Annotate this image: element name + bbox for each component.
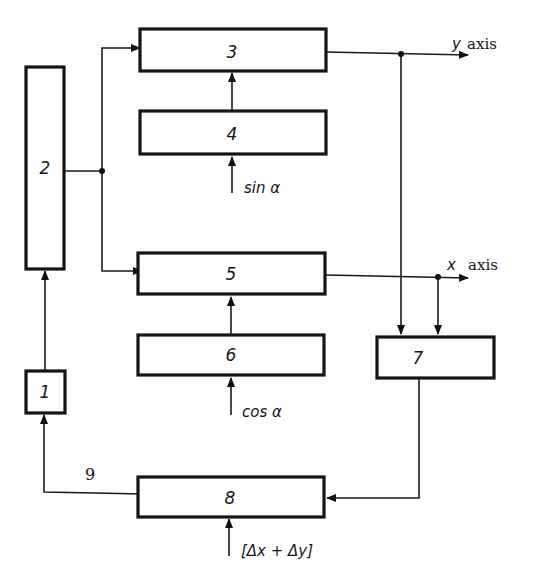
- block-2-label: 2: [40, 158, 51, 178]
- block-1-label: 1: [40, 382, 51, 402]
- feedback-label-9: 9: [85, 465, 95, 484]
- delta-sum-label: [Δx + Δy]: [241, 542, 313, 560]
- block-8-label: 8: [225, 488, 236, 508]
- x-axis-var: x: [446, 256, 456, 274]
- y-axis-var: y: [451, 35, 462, 53]
- block-3: 3: [140, 29, 326, 71]
- wire-x-axis: [326, 275, 468, 278]
- junction-dot: [99, 168, 105, 174]
- cos-alpha-label: cos α: [242, 403, 282, 421]
- block-6: 6: [138, 335, 324, 375]
- block-5-label: 5: [226, 264, 237, 284]
- y-axis-word: axis: [467, 35, 497, 53]
- wire-to-5: [102, 171, 142, 271]
- block-4: 4: [140, 111, 326, 154]
- x-axis-word: axis: [468, 256, 498, 274]
- block-7: 7: [377, 337, 494, 378]
- block-4-label: 4: [227, 124, 238, 144]
- block-3-label: 3: [227, 42, 238, 62]
- sin-alpha-label: sin α: [244, 179, 280, 197]
- block-1: 1: [26, 371, 65, 413]
- wire-7-to-8: [327, 378, 419, 498]
- block-diagram: 2 3 4 5 6 7 1 8 sin α cos α [Δx + Δy] y …: [0, 0, 545, 583]
- block-2: 2: [26, 67, 64, 269]
- block-7-label: 7: [413, 348, 424, 368]
- block-6-label: 6: [226, 345, 237, 365]
- block-8: 8: [138, 477, 324, 517]
- block-5: 5: [138, 253, 325, 294]
- wire-to-3: [102, 48, 140, 171]
- wire-y-axis: [326, 52, 468, 55]
